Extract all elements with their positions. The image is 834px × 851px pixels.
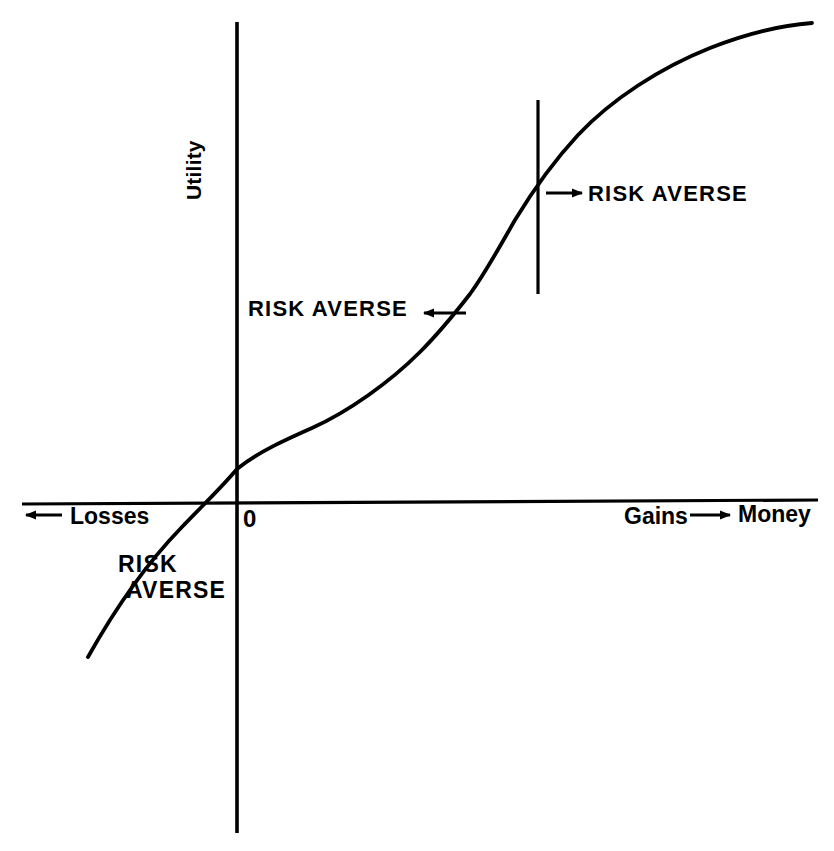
- annotation-risk-averse-lower: RISKAVERSE: [118, 552, 226, 604]
- origin-tick-label: 0: [243, 506, 257, 533]
- x-axis-label: Money: [738, 502, 811, 528]
- annotation-risk-averse-lower-line1: RISK: [118, 551, 178, 577]
- annotation-risk-averse-right: RISK AVERSE: [588, 182, 748, 207]
- annotation-risk-averse-lower-line2: AVERSE: [118, 578, 226, 604]
- gains-axis-label: Gains: [624, 504, 688, 530]
- utility-curve-figure: Utility 0 Losses Gains Money RISK AVERSE…: [0, 0, 834, 851]
- y-axis-label: Utility: [182, 140, 206, 200]
- annotation-risk-averse-middle: RISK AVERSE: [248, 297, 408, 322]
- chart-canvas: [0, 0, 834, 851]
- losses-axis-label: Losses: [70, 504, 149, 530]
